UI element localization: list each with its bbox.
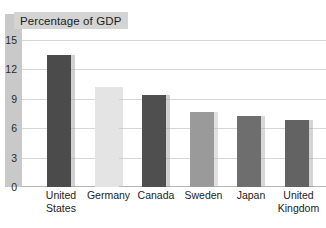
plot-area: 03691215	[22, 40, 326, 187]
x-axis-labels: UnitedStatesGermanyCanadaSwedenJapanUnit…	[22, 189, 326, 228]
bar-chart: Percentage of GDP 03691215 UnitedStatesG…	[0, 0, 326, 228]
bar	[190, 112, 218, 187]
y-axis-tick-15: 15	[5, 34, 17, 46]
bar-body	[190, 112, 214, 187]
chart-title: Percentage of GDP	[20, 15, 121, 27]
bar	[237, 116, 265, 187]
bar	[47, 55, 75, 187]
y-axis-tick-3: 3	[11, 152, 17, 164]
bar	[95, 87, 123, 187]
y-axis-tick-0: 0	[11, 181, 17, 193]
chart-title-band: Percentage of GDP	[14, 12, 128, 29]
x-axis-label: UnitedKingdom	[271, 189, 326, 215]
x-axis-label-line: Kingdom	[271, 202, 326, 215]
y-axis-tick-6: 6	[11, 122, 17, 134]
y-axis-tick-12: 12	[5, 63, 17, 75]
x-axis-label-line: United	[271, 189, 326, 202]
gridline-15	[22, 40, 326, 41]
bar-body	[47, 55, 71, 187]
bar-body	[142, 95, 166, 187]
x-axis-label-line: States	[33, 202, 89, 215]
bar	[142, 95, 170, 187]
y-axis-tick-9: 9	[11, 93, 17, 105]
bar	[285, 120, 313, 187]
bar-body	[285, 120, 309, 187]
bar-body	[95, 87, 119, 187]
bar-body	[237, 116, 261, 187]
